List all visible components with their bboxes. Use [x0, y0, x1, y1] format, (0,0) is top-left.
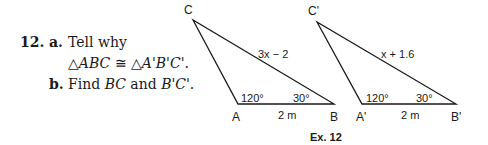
vertex-a-prime-label: A' [356, 110, 366, 124]
triangle-abc-prime-figure: C' A' B' x + 1.6 120° 30° 2 m [308, 4, 461, 124]
vertex-b-prime-label: B' [451, 110, 461, 124]
angle-b-prime-label: 30° [416, 92, 433, 104]
angle-a-label: 120° [241, 92, 264, 104]
side-bc-prime-label: x + 1.6 [381, 48, 414, 60]
side-ab-label: 2 m [278, 109, 296, 121]
vertex-b-label: B [330, 110, 338, 124]
figure-ex-12: C A B 3x − 2 120° 30° 2 m C' A' B' x + 1… [0, 0, 488, 145]
vertex-a-label: A [232, 110, 240, 124]
triangle-abc-figure: C A B 3x − 2 120° 30° 2 m [184, 3, 338, 124]
side-bc-label: 3x − 2 [258, 48, 288, 60]
angle-b-label: 30° [293, 92, 310, 104]
angle-a-prime-label: 120° [366, 92, 389, 104]
vertex-c-label: C [184, 3, 193, 17]
figure-caption: Ex. 12 [310, 131, 342, 143]
side-ab-prime-label: 2 m [401, 109, 419, 121]
vertex-c-prime-label: C' [308, 4, 319, 18]
